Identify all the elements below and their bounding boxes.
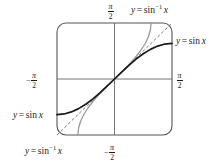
tick-right-fraction: π 2 (177, 72, 183, 89)
label-arcsine-top: y=sin−1x (131, 5, 168, 15)
label-sine-right-fn: sin (189, 36, 200, 46)
label-sine-right-var: x (200, 36, 206, 46)
tick-right-denominator: 2 (177, 81, 183, 89)
tick-top-fraction: π 2 (108, 3, 114, 20)
tick-bottom-denominator: 2 (109, 153, 115, 161)
tick-label-x-left: − π 2 (26, 72, 37, 89)
label-sine-left-eq: = (17, 110, 25, 120)
label-arcsine-bottom-var: x (56, 146, 62, 156)
label-sine-left-var: x (37, 110, 43, 120)
tick-label-x-right: π 2 (176, 72, 183, 89)
tick-bottom-numerator: π (109, 144, 115, 152)
tick-right-numerator: π (177, 72, 183, 80)
label-arcsine-top-var: x (162, 5, 168, 15)
tick-top-denominator: 2 (108, 12, 114, 20)
tick-left-fraction: π 2 (31, 72, 37, 89)
label-arcsine-top-fn: sin (144, 5, 155, 15)
tick-left-denominator: 2 (31, 81, 37, 89)
label-arcsine-bottom: y=sin−1x (25, 146, 62, 156)
label-arcsine-bottom-fn: sin (38, 146, 49, 156)
sine-arcsine-figure: y=sin−1x y=sinx y=sinx y=sin−1x π 2 − π … (0, 0, 214, 167)
label-sine-left-fn: sin (26, 110, 37, 120)
tick-top-numerator: π (108, 3, 114, 11)
label-sine-left: y=sinx (13, 110, 43, 120)
tick-left-numerator: π (31, 72, 37, 80)
label-sine-right-eq: = (180, 36, 188, 46)
label-arcsine-top-eq: = (135, 5, 143, 15)
tick-label-y-bottom: − π 2 (104, 144, 115, 161)
tick-left-sign: − (26, 77, 31, 85)
tick-bottom-sign: − (104, 149, 109, 157)
tick-label-y-top: π 2 (107, 3, 114, 20)
tick-bottom-fraction: π 2 (109, 144, 115, 161)
label-arcsine-bottom-eq: = (29, 146, 37, 156)
label-sine-right: y=sinx (176, 36, 206, 46)
